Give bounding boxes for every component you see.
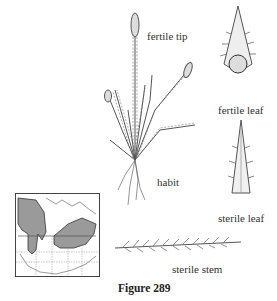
distribution-map	[15, 193, 100, 277]
sterile-stem-label: sterile stem	[172, 263, 222, 275]
habit-label: habit	[157, 176, 179, 188]
sterile-stem-illustration	[113, 86, 243, 106]
fertile-leaf-illustration	[218, 4, 258, 84]
figure-caption: Figure 289	[118, 282, 171, 294]
sterile-leaf-illustration	[226, 118, 256, 198]
sterile-leaf-label: sterile leaf	[218, 212, 264, 224]
sterile-stem-drawing	[113, 236, 243, 256]
fertile-tip-label: fertile tip	[147, 30, 188, 42]
